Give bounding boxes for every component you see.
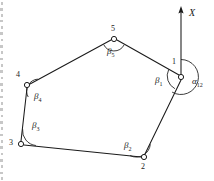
angle-label-beta-4: β4 [34, 92, 41, 103]
bearing-label-alpha-12: α12 [192, 77, 203, 88]
station-label-3: 3 [9, 139, 13, 147]
x-axis [178, 6, 183, 74]
station-marker-5[interactable] [111, 36, 116, 41]
beta-4-subscript: 4 [38, 97, 41, 103]
station-label-5: 5 [111, 25, 115, 33]
arc-beta-2 [130, 144, 150, 157]
leg-1-2 [145, 80, 181, 154]
station-label-4: 4 [16, 71, 20, 79]
leg-5-1 [117, 40, 179, 75]
angle-label-beta-3: β3 [32, 121, 39, 132]
station-marker-1[interactable] [178, 74, 183, 79]
angle-label-beta-2: β2 [124, 141, 131, 152]
x-axis-label: X [189, 8, 195, 18]
leg-4-5 [30, 40, 111, 84]
traverse-diagram [0, 0, 214, 181]
angle-label-beta-1: β1 [155, 76, 162, 87]
station-marker-2[interactable] [141, 154, 146, 159]
beta-5-subscript: 5 [111, 52, 114, 58]
station-label-1: 1 [172, 58, 176, 66]
beta-3-subscript: 3 [36, 126, 39, 132]
beta-1-subscript: 1 [159, 81, 162, 87]
leg-3-4 [21, 88, 27, 141]
station-label-2: 2 [141, 163, 145, 171]
station-marker-4[interactable] [24, 82, 29, 87]
station-marker-3[interactable] [18, 141, 23, 146]
alpha-12-subscript: 12 [197, 82, 203, 88]
angle-label-beta-5: β5 [107, 47, 114, 58]
beta-2-subscript: 2 [128, 146, 131, 152]
